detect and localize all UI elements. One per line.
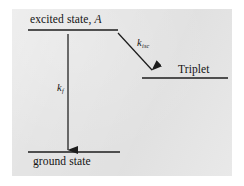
intersystem-crossing-rate-constant-label: kisc [137, 37, 149, 48]
excited-state-species-symbol: A [91, 13, 101, 25]
energy-level-diagram-figure: excited state,A ground state Triplet kf … [0, 0, 244, 186]
fluorescence-rate-subscript: f [62, 87, 64, 94]
fluorescence-rate-symbol: k [57, 82, 62, 93]
fluorescence-rate-constant-label: kf [57, 82, 64, 93]
ground-state-label: ground state [33, 156, 91, 168]
triplet-state-label: Triplet [178, 64, 210, 76]
excited-state-label-text: excited state, [30, 13, 91, 25]
excited-state-label: excited state,A [30, 14, 102, 26]
intersystem-crossing-rate-subscript: isc [142, 42, 149, 49]
intersystem-crossing-rate-symbol: k [137, 37, 142, 48]
